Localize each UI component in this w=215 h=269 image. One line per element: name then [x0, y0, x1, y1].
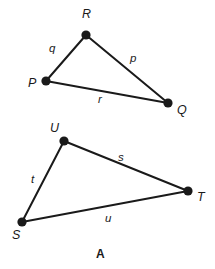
vertex-dot-P [41, 76, 50, 85]
vertex-dot-R [81, 30, 90, 39]
segment-r-PQ [46, 81, 168, 103]
figure-caption: A [96, 248, 105, 260]
vertex-label-U: U [50, 122, 59, 135]
triangle-PQR [41, 30, 172, 107]
side-label-r: r [98, 94, 102, 106]
vertex-dot-S [17, 217, 26, 226]
segment-s-UT [64, 141, 188, 191]
side-label-s: s [118, 152, 124, 164]
vertex-label-P: P [28, 77, 37, 90]
vertex-label-Q: Q [177, 104, 187, 117]
geometry-figure: R P Q q p r U T S s t u A [0, 0, 215, 269]
vertex-label-T: T [197, 191, 205, 204]
vertex-label-R: R [82, 8, 91, 21]
side-label-u: u [105, 213, 111, 225]
side-label-q: q [49, 43, 55, 55]
side-label-t: t [31, 174, 34, 186]
vertex-dot-T [183, 186, 192, 195]
vertex-label-S: S [12, 229, 21, 242]
segment-t-SU [22, 141, 64, 222]
vertex-dot-U [59, 136, 68, 145]
side-label-p: p [130, 53, 136, 65]
triangles-diagram [0, 0, 215, 269]
vertex-dot-Q [163, 98, 172, 107]
